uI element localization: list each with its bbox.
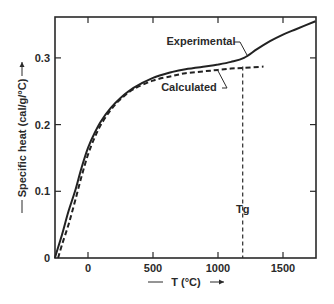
plot-frame xyxy=(55,17,316,258)
x-tick-label: 500 xyxy=(144,262,162,274)
axis-ticks xyxy=(55,17,316,258)
experimental-leader xyxy=(234,42,247,55)
y-tick-label: 0.3 xyxy=(35,52,50,64)
x-tick-label: 1500 xyxy=(271,262,295,274)
calculated-leader xyxy=(217,69,227,88)
y-tick-label: 0.1 xyxy=(35,185,50,197)
data-series xyxy=(55,21,316,258)
x-axis-label: T (°C) xyxy=(148,276,224,288)
specific-heat-chart: 05001000150000.10.20.3 Tg Experimental C… xyxy=(0,0,334,304)
calculated-label: Calculated xyxy=(161,81,217,93)
calculated-curve xyxy=(58,67,263,258)
y-tick-label: 0.2 xyxy=(35,119,50,131)
y-tick-label: 0 xyxy=(44,252,50,264)
experimental-label: Experimental xyxy=(166,35,235,47)
tg-label: Tg xyxy=(236,203,249,215)
y-axis-label: Specific heat (cal/g/°C) xyxy=(16,62,28,213)
x-axis-title: T (°C) xyxy=(171,276,201,288)
y-axis-title: Specific heat (cal/g/°C) xyxy=(16,78,28,197)
x-tick-label: 0 xyxy=(85,262,91,274)
x-tick-label: 1000 xyxy=(206,262,230,274)
